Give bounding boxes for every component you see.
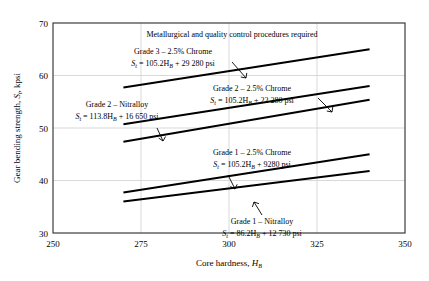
eq2n-body: = 113.8H	[81, 112, 113, 121]
y-axis-label-main: Gear bending strength,	[12, 99, 22, 183]
svg-text:Gear bending strength, St, kps: Gear bending strength, St, kpsi	[12, 72, 23, 183]
y-tick-50: 50	[39, 124, 49, 134]
annotation-grade-2-nitralloy-equation: St = 113.8HB + 16 650 psi	[75, 112, 159, 122]
annotation-grade-3-equation: St = 105.2HB + 29 280 psi	[131, 59, 215, 69]
annotation-grade-1-chrome-title: Grade 1 – 2.5% Chrome	[213, 148, 291, 157]
eq1n-tail: + 12 730 psi	[260, 229, 303, 238]
annotation-grade-1-nitralloy-equation: St = 86.2HB + 12 730 psi	[222, 229, 302, 239]
x-tick-275: 275	[134, 239, 148, 249]
x-tick-300: 300	[222, 239, 236, 249]
annotation-grade-2-nitralloy-title: Grade 2 – Nitralloy	[86, 100, 148, 109]
y-tick-60: 60	[39, 71, 49, 81]
x-axis-label-main: Core hardness,	[196, 258, 252, 268]
annotation-grade-2-chrome-title: Grade 2 – 2.5% Chrome	[213, 84, 291, 93]
x-axis-label: Core hardness, HB	[196, 258, 262, 269]
eq3-body: = 105.2H	[137, 59, 170, 68]
eq2c-body: = 105.2H	[216, 96, 249, 105]
chart-title: Metallurgical and quality control proced…	[146, 30, 317, 39]
eq2c-tail: + 22 280 psi	[252, 96, 295, 105]
annotation-grade-1-nitralloy-title: Grade 1 – Nitralloy	[231, 217, 293, 226]
y-axis-label-tail: , kpsi	[12, 72, 22, 92]
chart-svg: 70 60 50 40 30 250 275 300 325 350 Gear …	[0, 0, 429, 281]
y-axis-label: Gear bending strength, St, kpsi	[12, 72, 23, 183]
chart-background	[0, 0, 429, 281]
figure-container: 70 60 50 40 30 250 275 300 325 350 Gear …	[0, 0, 429, 281]
y-tick-70: 70	[39, 19, 49, 29]
x-tick-250: 250	[46, 239, 60, 249]
eq2n-tail: + 16 650 psi	[117, 112, 160, 121]
x-tick-325: 325	[310, 239, 324, 249]
eq1n-body: = 86.2H	[228, 229, 257, 238]
x-axis-label-subscript: B	[258, 263, 262, 269]
annotation-grade-3-title: Grade 3 – 2.5% Chrome	[134, 47, 212, 56]
eq1c-body: = 105.2H	[219, 160, 252, 169]
eq3-tail: + 29 280 psi	[173, 59, 216, 68]
eq1c-tail: + 9280 psi	[255, 160, 292, 169]
annotation-grade-2-chrome-equation: St = 105.2HB + 22 280 psi	[210, 96, 294, 106]
x-tick-350: 350	[398, 239, 412, 249]
y-tick-40: 40	[39, 176, 49, 186]
y-tick-30: 30	[39, 229, 49, 239]
